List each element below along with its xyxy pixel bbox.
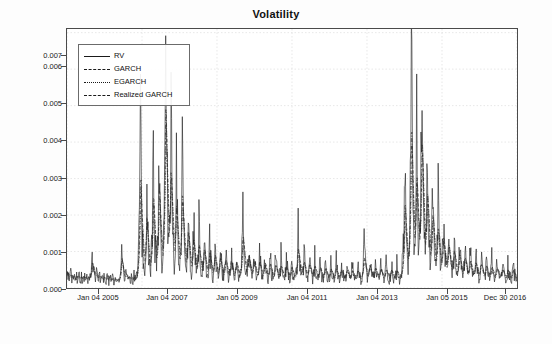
x-tick-label: Dec 30 2016 [484, 293, 527, 302]
x-tick-label: Jan 04 2013 [356, 293, 397, 302]
x-tick-mark [98, 289, 99, 294]
page-title: Volatility [0, 8, 552, 20]
y-tick-label: 0.007 [2, 51, 62, 60]
legend-item-garch: GARCH [82, 62, 186, 75]
legend-label: GARCH [112, 64, 141, 73]
legend-label: RV [112, 51, 124, 60]
y-tick-label: 0.006 [2, 62, 62, 71]
y-tick-label: 0.001 [2, 248, 62, 257]
x-tick-label: Jan 04 2005 [77, 293, 118, 302]
y-tick-label: 0.004 [2, 136, 62, 145]
x-tick-label: Jan 05 2009 [216, 293, 257, 302]
x-tick-mark [237, 289, 238, 294]
legend-key-dotdash-icon [82, 90, 112, 100]
legend-item-egarch: EGARCH [82, 75, 186, 88]
legend-key-dashed-icon [82, 64, 112, 74]
x-tick-mark [505, 289, 506, 294]
y-tick-label: 0.003 [2, 174, 62, 183]
chart-figure: Volatility 0.000 0.001 0.002 0.003 0.004… [0, 0, 552, 344]
y-tick-label: 0.002 [2, 211, 62, 220]
legend-label: Realized GARCH [112, 90, 172, 99]
x-tick-mark [377, 289, 378, 294]
x-tick-mark [447, 289, 448, 294]
legend-key-dotted-icon [82, 77, 112, 87]
y-tick-mark [61, 289, 66, 290]
x-tick-label: Jan 04 2011 [287, 293, 328, 302]
x-tick-label: Jan 04 2007 [146, 293, 187, 302]
x-tick-label: Jan 05 2015 [426, 293, 467, 302]
legend-item-realized-garch: Realized GARCH [82, 88, 186, 101]
x-tick-mark [167, 289, 168, 294]
legend: RV GARCH EGARCH Realized GARCH [78, 44, 190, 106]
legend-item-rv: RV [82, 49, 186, 62]
y-tick-label: 0.000 [2, 285, 62, 294]
legend-key-solid-icon [82, 51, 112, 61]
y-tick-label: 0.005 [2, 99, 62, 108]
legend-label: EGARCH [112, 77, 146, 86]
x-tick-mark [307, 289, 308, 294]
